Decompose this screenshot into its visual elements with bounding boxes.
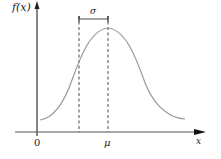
- x-axis-label: x: [196, 137, 201, 146]
- x-axis-arrow-icon: [194, 129, 206, 135]
- normal-distribution-diagram: [0, 0, 221, 159]
- gaussian-curve: [40, 28, 185, 120]
- y-axis-arrow-icon: [35, 1, 40, 9]
- mean-label: μ: [104, 138, 111, 148]
- origin-label: 0: [34, 138, 40, 148]
- y-axis-label: f(x): [12, 2, 31, 13]
- sigma-label: σ: [90, 7, 96, 16]
